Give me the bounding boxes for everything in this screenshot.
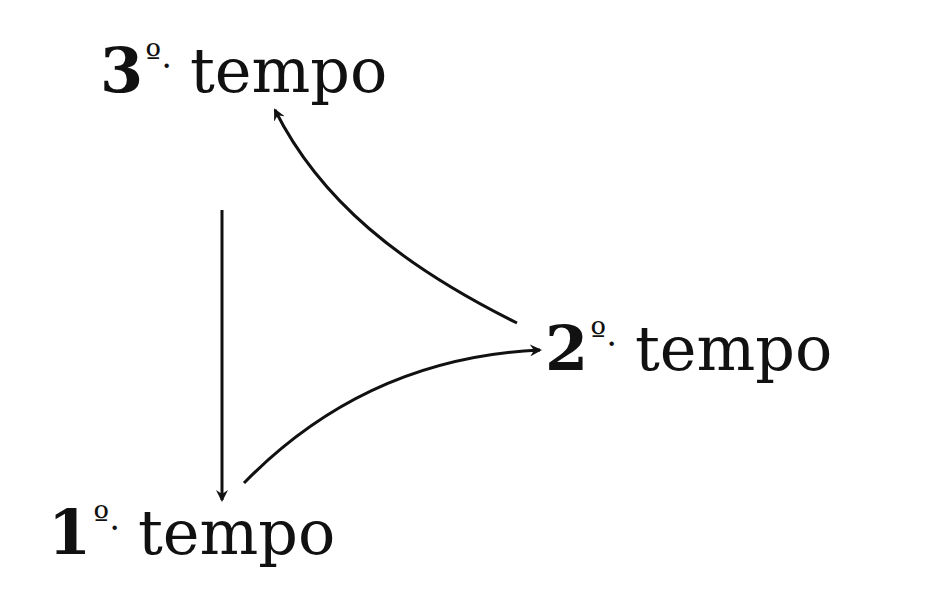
- node-ordinal: º.: [145, 36, 172, 76]
- node-number: 3: [100, 34, 143, 107]
- node-word: tempo: [190, 34, 387, 107]
- arrow-1-to-2: [244, 350, 540, 483]
- node-word: tempo: [635, 312, 832, 385]
- node-word: tempo: [138, 496, 335, 569]
- node-ordinal: º.: [590, 314, 617, 354]
- node-3-tempo: 3º.tempo: [100, 40, 387, 102]
- arrow-2-to-3: [275, 110, 517, 323]
- node-2-tempo: 2º.tempo: [545, 318, 832, 380]
- node-number: 2: [545, 312, 588, 385]
- node-ordinal: º.: [93, 498, 120, 538]
- node-1-tempo: 1º.tempo: [48, 502, 335, 564]
- cycle-diagram: 3º.tempo 2º.tempo 1º.tempo: [0, 0, 930, 611]
- node-number: 1: [48, 496, 91, 569]
